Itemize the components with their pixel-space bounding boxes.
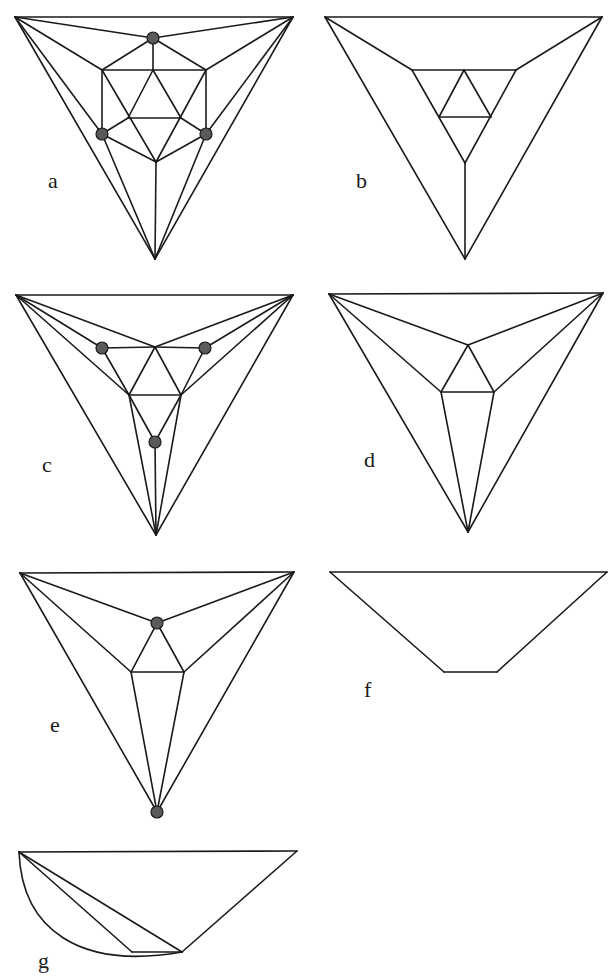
graph-edge — [153, 38, 206, 70]
graph-edge — [102, 347, 155, 348]
graph-edge — [19, 852, 182, 952]
highlighted-vertex — [147, 32, 159, 44]
graph-edge — [102, 134, 155, 259]
graph-edge — [153, 70, 181, 118]
panel-a: a — [15, 17, 293, 259]
graph-edge — [468, 293, 603, 345]
graph-edge — [181, 348, 205, 395]
graph-edge — [131, 672, 157, 812]
panel-label: e — [50, 712, 60, 737]
graph-edge — [497, 572, 607, 672]
graph-edge — [102, 348, 129, 395]
graph-edge — [129, 347, 155, 395]
graph-edge — [16, 295, 156, 535]
graph-edge — [206, 17, 293, 70]
panel-label: g — [38, 948, 49, 973]
graph-edge — [329, 293, 603, 294]
graph-edge — [155, 347, 205, 348]
graph-edge — [155, 442, 156, 535]
graph-edge — [155, 347, 181, 395]
highlighted-vertex — [151, 806, 163, 818]
graph-edge — [155, 134, 206, 259]
graph-edge — [465, 17, 602, 259]
graph-edge — [131, 623, 157, 672]
graph-edge — [20, 573, 157, 812]
panel-b: b — [325, 17, 602, 259]
panel-c: c — [16, 295, 293, 535]
graph-edge — [181, 295, 293, 395]
graph-edge — [206, 17, 293, 134]
graph-edge — [156, 295, 293, 535]
highlighted-vertex — [151, 617, 163, 629]
panel-f: f — [330, 572, 607, 702]
graph-edge — [184, 572, 294, 672]
highlighted-vertex — [199, 342, 211, 354]
graph-edge — [325, 17, 465, 259]
graph-edge — [441, 392, 468, 532]
graph-diagram-canvas: abcdefg — [0, 0, 608, 977]
graph-edge — [329, 294, 468, 345]
panel-d: d — [329, 293, 603, 532]
graph-edge — [157, 672, 184, 812]
graph-edge — [20, 573, 131, 672]
panel-g: g — [19, 851, 297, 973]
graph-edge — [516, 17, 602, 70]
graph-edge — [19, 851, 297, 852]
graph-edge — [157, 572, 294, 623]
graph-edge — [468, 345, 494, 392]
graph-edge — [15, 17, 102, 70]
graph-edge — [16, 295, 129, 395]
graph-edge — [439, 70, 464, 117]
graph-edge — [102, 38, 153, 70]
graph-edge — [20, 572, 294, 573]
graph-edge — [155, 17, 293, 259]
panel-label: b — [356, 168, 367, 193]
graph-edge — [128, 70, 153, 118]
graph-edge — [330, 572, 444, 672]
graph-edge — [468, 293, 603, 532]
graph-edge — [441, 345, 468, 392]
graph-edge — [15, 17, 153, 38]
graph-edge — [155, 162, 156, 259]
graph-edge — [325, 17, 412, 70]
graph-edge — [153, 17, 293, 38]
graph-edge — [468, 392, 494, 532]
graph-edge — [19, 852, 132, 952]
panel-label: f — [364, 677, 372, 702]
graph-edge — [155, 295, 293, 347]
graph-edge — [157, 572, 294, 812]
graph-edge — [20, 573, 157, 623]
panel-label: a — [48, 168, 58, 193]
panel-label: c — [42, 452, 52, 477]
graph-edge — [329, 294, 468, 532]
graph-edge — [329, 294, 441, 392]
graph-edge — [15, 17, 102, 134]
highlighted-vertex — [96, 128, 108, 140]
graph-edge — [15, 17, 155, 259]
graph-edge — [16, 295, 155, 347]
highlighted-vertex — [200, 128, 212, 140]
graph-edge — [182, 851, 297, 952]
graph-edge — [129, 395, 156, 535]
graph-edge — [205, 295, 293, 348]
panel-label: d — [364, 447, 375, 472]
highlighted-vertex — [96, 342, 108, 354]
graph-edge — [464, 70, 491, 117]
graph-edge — [157, 623, 184, 672]
panel-e: e — [20, 572, 294, 818]
highlighted-vertex — [149, 436, 161, 448]
graph-edge — [494, 293, 603, 392]
